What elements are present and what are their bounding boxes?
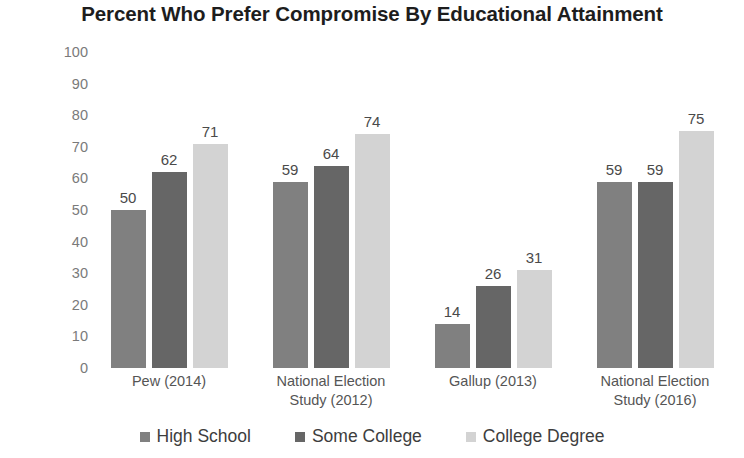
bar-item[interactable]: 74 <box>355 52 390 368</box>
bar-value-label: 26 <box>485 266 502 281</box>
bar-group: 596474 <box>250 52 412 368</box>
bar[interactable] <box>355 134 390 368</box>
bar-group: 142631 <box>412 52 574 368</box>
category-label-line: Pew (2014) <box>88 372 250 391</box>
category-label-line: Study (2016) <box>574 391 736 410</box>
category-label: National ElectionStudy (2012) <box>250 372 412 410</box>
legend-swatch-icon <box>140 432 150 442</box>
y-axis-tick: 0 <box>48 361 88 376</box>
bar[interactable] <box>193 144 228 368</box>
bar-item[interactable]: 26 <box>476 52 511 368</box>
bar-value-label: 31 <box>526 250 543 265</box>
bar[interactable] <box>152 172 187 368</box>
category-label: Pew (2014) <box>88 372 250 391</box>
bar-item[interactable]: 59 <box>273 52 308 368</box>
y-axis-tick: 60 <box>48 171 88 186</box>
category-label: Gallup (2013) <box>412 372 574 391</box>
legend-label: College Degree <box>483 428 605 446</box>
y-axis-tick: 90 <box>48 76 88 91</box>
bar-item[interactable]: 59 <box>597 52 632 368</box>
bar-value-label: 50 <box>120 190 137 205</box>
legend-item[interactable]: Some College <box>295 428 422 446</box>
bar-value-label: 71 <box>202 124 219 139</box>
category-label-line: National Election <box>250 372 412 391</box>
bar[interactable] <box>111 210 146 368</box>
y-axis-tick: 30 <box>48 266 88 281</box>
bar[interactable] <box>435 324 470 368</box>
y-axis-tick: 70 <box>48 140 88 155</box>
bar-value-label: 14 <box>444 304 461 319</box>
bar-value-label: 74 <box>364 114 381 129</box>
category-axis: Pew (2014)National ElectionStudy (2012)G… <box>88 372 736 418</box>
y-axis-tick: 80 <box>48 108 88 123</box>
legend-label: High School <box>157 428 251 446</box>
legend-item[interactable]: High School <box>140 428 251 446</box>
bar-value-label: 59 <box>606 162 623 177</box>
bar-item[interactable]: 50 <box>111 52 146 368</box>
y-axis-tick: 40 <box>48 234 88 249</box>
category-label-line: Gallup (2013) <box>412 372 574 391</box>
legend-swatch-icon <box>295 432 305 442</box>
bar-item[interactable]: 71 <box>193 52 228 368</box>
category-label-line: Study (2012) <box>250 391 412 410</box>
bar[interactable] <box>273 182 308 368</box>
category-label: National ElectionStudy (2016) <box>574 372 736 410</box>
bar-item[interactable]: 75 <box>679 52 714 368</box>
y-axis-tick: 10 <box>48 329 88 344</box>
bar-item[interactable]: 62 <box>152 52 187 368</box>
bar[interactable] <box>597 182 632 368</box>
bar-item[interactable]: 14 <box>435 52 470 368</box>
bar[interactable] <box>679 131 714 368</box>
bar[interactable] <box>314 166 349 368</box>
bar-item[interactable]: 31 <box>517 52 552 368</box>
bar-item[interactable]: 64 <box>314 52 349 368</box>
plot-area: 1009080706050403020100 50627159647414263… <box>48 44 736 384</box>
legend-swatch-icon <box>466 432 476 442</box>
bar-chart: Percent Who Prefer Compromise By Educati… <box>0 0 744 458</box>
y-axis-tick: 100 <box>48 45 88 60</box>
bars-area: 506271596474142631595975 <box>88 44 736 384</box>
bar-group: 506271 <box>88 52 250 368</box>
legend-item[interactable]: College Degree <box>466 428 605 446</box>
chart-legend: High SchoolSome CollegeCollege Degree <box>0 428 744 446</box>
bar-item[interactable]: 59 <box>638 52 673 368</box>
y-axis: 1009080706050403020100 <box>48 44 88 384</box>
bar[interactable] <box>517 270 552 368</box>
bar-value-label: 64 <box>323 146 340 161</box>
bar-value-label: 75 <box>688 111 705 126</box>
bar[interactable] <box>638 182 673 368</box>
bar-value-label: 59 <box>647 162 664 177</box>
category-label-line: National Election <box>574 372 736 391</box>
y-axis-tick: 20 <box>48 298 88 313</box>
bar-value-label: 59 <box>282 162 299 177</box>
bar-value-label: 62 <box>161 152 178 167</box>
bar-group: 595975 <box>574 52 736 368</box>
y-axis-tick: 50 <box>48 203 88 218</box>
legend-label: Some College <box>312 428 422 446</box>
bar[interactable] <box>476 286 511 368</box>
chart-title: Percent Who Prefer Compromise By Educati… <box>0 2 744 26</box>
